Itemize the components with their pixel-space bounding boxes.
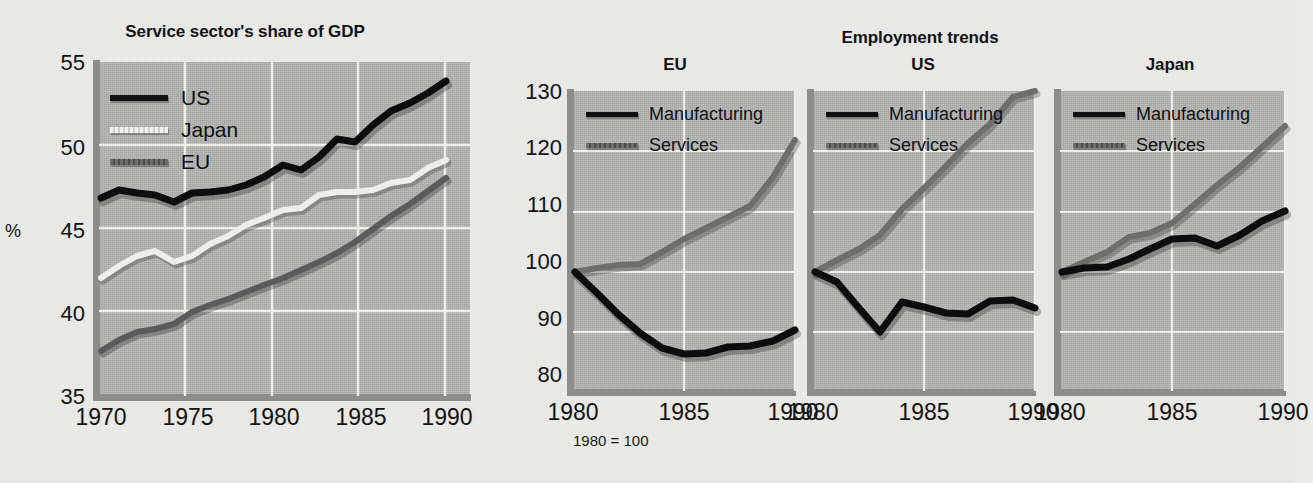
japan-x-tick-1980: 1980 (1019, 399, 1101, 426)
japan-legend-item-services: Services (1073, 135, 1205, 156)
japan-x-tick-1990: 1990 (1242, 399, 1313, 426)
japan-legend-item-manufacturing: Manufacturing (1073, 104, 1250, 125)
japan-legend-label-manufacturing: Manufacturing (1136, 104, 1250, 125)
legend-swatch-services-icon (1073, 143, 1125, 148)
japan-legend-label-services: Services (1136, 135, 1205, 156)
japan-legend: Manufacturing Services (1073, 98, 1273, 168)
japan-x-tick-1985: 1985 (1131, 399, 1213, 426)
legend-swatch-manufacturing-icon (1073, 112, 1125, 117)
